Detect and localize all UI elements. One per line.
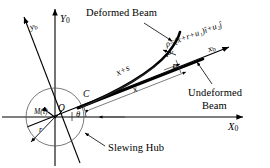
label-hub-torque: M(t)	[34, 108, 48, 116]
label-undeformed-beam-line2: Beam	[202, 101, 227, 112]
axis-label-y0: Y0	[60, 14, 70, 25]
slewing-hub-leader	[85, 133, 105, 146]
label-undeformed-beam-line1: Undeformed	[188, 88, 242, 99]
label-point-p: P	[172, 63, 177, 72]
label-point-p-prime: P′	[166, 50, 173, 59]
undeformed-beam-leader	[197, 62, 212, 84]
label-slewing-hub: Slewing Hub	[108, 143, 164, 154]
axis-label-x0: X0	[228, 122, 238, 133]
label-hub-radius: r	[39, 126, 42, 134]
label-clamp-point: C	[83, 90, 89, 100]
label-deformed-beam: Deformed Beam	[86, 8, 157, 19]
label-origin-point: O	[58, 104, 65, 114]
label-hub-angle: θ	[76, 110, 80, 119]
